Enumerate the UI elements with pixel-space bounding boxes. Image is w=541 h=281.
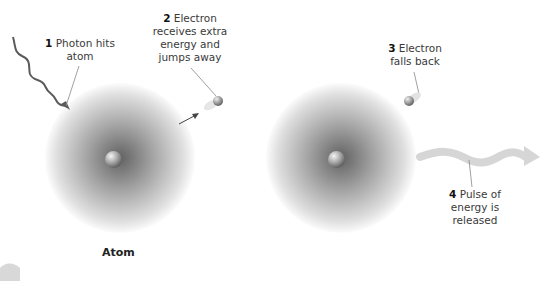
partial-circle-decoration [0,264,20,281]
energy-pulse-wave-icon [420,152,526,163]
step-number-4: 4 [449,188,456,200]
label-step-3: 3 Electron falls back [375,42,455,68]
electron-escaping [213,96,223,106]
step-number-1: 1 [45,37,52,49]
leader-line-1 [66,66,79,106]
electron-returning [404,96,414,106]
energy-pulse-arrowhead-icon [524,146,540,166]
atom-caption: Atom [102,246,135,259]
label-step-1: 1 Photon hits atom [40,37,120,63]
label-step-2: 2 Electron receives extra energy and jum… [150,12,230,64]
step-number-2: 2 [163,12,170,24]
label-step-4: 4 Pulse of energy is released [440,188,510,227]
leader-line-2 [191,68,216,96]
leader-line-3 [414,72,419,94]
step-number-3: 3 [388,42,395,54]
